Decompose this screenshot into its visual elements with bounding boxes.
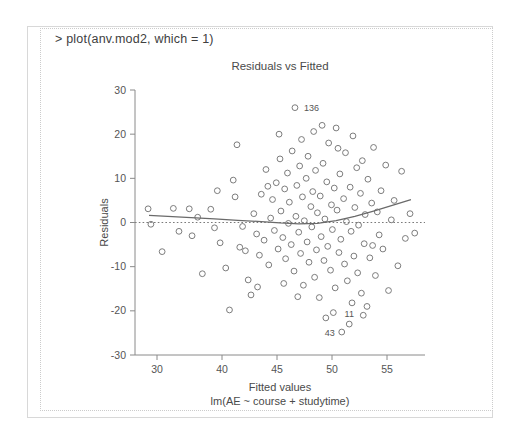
screenshot-root: > plot(anv.mod2, which = 1) Residuals vs… — [0, 0, 522, 447]
data-point — [251, 211, 257, 217]
x-tick-label: 50 — [326, 363, 338, 375]
x-axis-title: Fitted values — [249, 381, 312, 393]
y-tick-label: -20 — [111, 304, 126, 316]
plot-title: Residuals vs Fitted — [231, 60, 328, 72]
reference-lines-group — [135, 200, 425, 224]
data-point — [285, 170, 291, 176]
data-point — [271, 228, 277, 234]
data-point — [214, 188, 220, 194]
data-point — [223, 265, 229, 271]
data-point — [365, 176, 371, 182]
x-tick-label: 40 — [216, 363, 228, 375]
data-point — [232, 194, 238, 200]
data-point — [364, 304, 370, 310]
data-point — [383, 162, 389, 168]
data-point — [304, 239, 310, 245]
data-point — [208, 206, 214, 212]
data-point — [312, 274, 318, 280]
data-point — [306, 259, 312, 265]
data-point — [295, 294, 301, 300]
data-point — [299, 137, 305, 143]
plot-title-group: Residuals vs Fitted — [231, 60, 328, 72]
data-point — [186, 206, 192, 212]
data-point — [334, 207, 340, 213]
data-point — [217, 240, 223, 246]
data-point — [258, 191, 264, 197]
data-point — [339, 329, 345, 335]
data-point — [402, 236, 408, 242]
outlier-label-43: 43 — [325, 328, 335, 338]
data-point — [263, 167, 269, 173]
data-point — [335, 145, 341, 151]
data-point — [278, 208, 284, 214]
data-point — [227, 307, 233, 313]
data-point — [356, 222, 362, 228]
data-point — [281, 281, 287, 287]
data-point — [276, 131, 282, 137]
data-point — [237, 244, 243, 250]
data-point — [338, 236, 344, 242]
data-point — [320, 160, 326, 166]
data-point — [261, 237, 267, 243]
data-point — [358, 290, 364, 296]
data-point — [333, 125, 339, 131]
data-point — [331, 185, 337, 191]
data-point — [189, 233, 195, 239]
point-annotations-group: 1361143 — [304, 103, 354, 338]
data-point — [170, 205, 176, 211]
data-point — [407, 211, 413, 217]
data-point — [361, 241, 367, 247]
data-point — [266, 262, 272, 268]
data-point — [354, 165, 360, 171]
data-point — [309, 224, 315, 230]
data-point — [358, 190, 364, 196]
y-tick-label: 20 — [114, 128, 126, 140]
x-tick-label: 45 — [271, 363, 283, 375]
data-point — [245, 277, 251, 283]
data-point — [348, 228, 354, 234]
data-point — [199, 271, 205, 277]
data-point — [324, 179, 330, 185]
data-point — [212, 225, 218, 231]
data-point — [336, 250, 342, 256]
data-point — [289, 148, 295, 154]
residuals-vs-fitted-plot: Residuals vs Fitted 30404550553020100-10… — [0, 0, 522, 447]
data-point — [288, 242, 294, 248]
data-point — [310, 189, 316, 195]
data-point — [337, 171, 343, 177]
data-point — [292, 105, 298, 111]
data-point — [325, 243, 331, 249]
data-point — [329, 202, 335, 208]
data-point — [318, 234, 324, 240]
data-point — [322, 216, 328, 222]
data-point — [313, 167, 319, 173]
data-point — [255, 284, 261, 290]
x-axis-subtitle: lm(AE ~ course + studytime) — [211, 395, 350, 407]
data-point — [328, 267, 334, 273]
data-point — [242, 248, 248, 254]
data-point — [234, 142, 240, 148]
data-point — [370, 243, 376, 249]
data-point — [257, 252, 263, 258]
plot-canvas: Residuals vs Fitted 30404550553020100-10… — [0, 0, 522, 447]
data-point — [369, 200, 375, 206]
data-point — [355, 270, 361, 276]
data-point — [315, 210, 321, 216]
data-point — [296, 229, 302, 235]
data-point — [300, 194, 306, 200]
data-point — [344, 219, 350, 225]
data-point — [291, 268, 297, 274]
data-point — [297, 163, 303, 169]
data-point — [283, 256, 289, 262]
data-point — [176, 228, 182, 234]
data-point — [343, 150, 349, 156]
data-point — [317, 193, 323, 199]
data-point — [395, 263, 401, 269]
data-point — [373, 273, 379, 279]
data-point — [254, 231, 260, 237]
y-tick-label: 0 — [120, 216, 126, 228]
data-point — [159, 249, 165, 255]
x-tick-label: 55 — [381, 363, 393, 375]
data-point — [391, 198, 397, 204]
data-point — [386, 288, 392, 294]
